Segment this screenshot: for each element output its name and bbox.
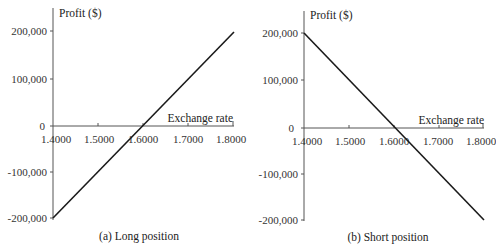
x-axis-title: Exchange rate [419, 114, 484, 127]
panel-long-position: 200,000 100,000 0 -100,000 -200,000 1.40… [8, 7, 247, 243]
y-tick-label: 100,000 [11, 73, 47, 85]
chart-canvas: 200,000 100,000 0 -100,000 -200,000 1.40… [0, 0, 496, 247]
x-tick-label: 1.4000 [41, 133, 72, 145]
panel-short-position: 200,000 100,000 0 -100,000 -200,000 1.40… [259, 9, 496, 244]
y-tick-label: -100,000 [259, 168, 299, 180]
x-tick-label: 1.8000 [466, 135, 496, 147]
y-tick-label: 100,000 [262, 74, 298, 86]
y-tick-label: 0 [289, 122, 295, 134]
x-tick-label: 1.5000 [84, 133, 115, 145]
x-tick-label: 1.8000 [216, 133, 247, 145]
x-tick-label: 1.7000 [423, 135, 454, 147]
y-axis-title: Profit ($) [310, 9, 353, 22]
y-tick-label: 0 [40, 120, 46, 132]
x-tick-label: 1.5000 [335, 135, 366, 147]
short-position-line [304, 33, 484, 220]
y-tick-label: -200,000 [8, 212, 48, 224]
panel-caption: (a) Long position [99, 230, 179, 243]
y-tick-label: -100,000 [8, 166, 48, 178]
long-position-line [53, 32, 234, 218]
panel-caption: (b) Short position [347, 231, 428, 244]
y-tick-label: 200,000 [11, 25, 47, 37]
y-tick-label: -200,000 [259, 214, 299, 226]
y-tick-label: 200,000 [262, 27, 298, 39]
y-axis-title: Profit ($) [59, 7, 102, 20]
x-axis-title: Exchange rate [168, 112, 233, 125]
x-tick-label: 1.6000 [128, 133, 159, 145]
x-tick-label: 1.7000 [173, 133, 204, 145]
x-tick-label: 1.4000 [292, 135, 323, 147]
